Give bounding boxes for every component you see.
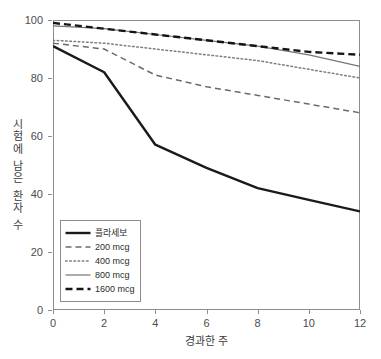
x-tick-label: 0 bbox=[38, 318, 68, 329]
series-line bbox=[53, 46, 360, 211]
y-tick-mark bbox=[48, 194, 52, 195]
x-tick-mark bbox=[207, 310, 208, 314]
y-axis-title-char: 험 bbox=[10, 130, 26, 142]
x-tick-label: 4 bbox=[140, 318, 170, 329]
y-axis-title: 시험에 남은 환자 수 bbox=[10, 118, 26, 232]
y-tick-mark bbox=[48, 252, 52, 253]
legend-line-swatch bbox=[65, 284, 91, 294]
legend-item[interactable]: 800 mcg bbox=[65, 268, 135, 282]
legend-line-swatch bbox=[65, 228, 91, 238]
series-line bbox=[53, 40, 360, 78]
x-tick-mark bbox=[104, 310, 105, 314]
x-tick-label: 10 bbox=[294, 318, 324, 329]
y-tick-mark bbox=[48, 310, 52, 311]
x-tick-mark bbox=[258, 310, 259, 314]
x-tick-mark bbox=[53, 310, 54, 314]
y-tick-label: 20 bbox=[9, 247, 43, 258]
legend-line-swatch bbox=[65, 242, 91, 252]
y-tick-mark bbox=[48, 78, 52, 79]
x-tick-mark bbox=[155, 310, 156, 314]
series-line bbox=[53, 43, 360, 113]
chart-container: 020406080100 024681012 경과한 주 시험에 남은 환자 수… bbox=[0, 0, 381, 359]
legend-item[interactable]: 200 mcg bbox=[65, 240, 135, 254]
y-axis-title-char: 자 bbox=[10, 202, 26, 214]
x-tick-label: 8 bbox=[243, 318, 273, 329]
y-axis-title-char: 수 bbox=[10, 219, 26, 231]
x-axis-title: 경과한 주 bbox=[53, 332, 360, 348]
y-axis-title-char: 시 bbox=[10, 118, 26, 130]
y-tick-label: 80 bbox=[9, 73, 43, 84]
legend-line-swatch bbox=[65, 270, 91, 280]
legend-line-swatch bbox=[65, 256, 91, 266]
x-tick-mark bbox=[309, 310, 310, 314]
x-tick-label: 12 bbox=[345, 318, 375, 329]
y-axis-title-char: 환 bbox=[10, 190, 26, 202]
legend-item-label: 400 mcg bbox=[95, 257, 130, 266]
y-axis-title-char: 에 bbox=[10, 143, 26, 155]
y-tick-mark bbox=[48, 20, 52, 21]
y-axis-title-char: 남 bbox=[10, 160, 26, 172]
legend-item[interactable]: 400 mcg bbox=[65, 254, 135, 268]
series-line bbox=[53, 23, 360, 55]
y-axis-title-char: 은 bbox=[10, 172, 26, 184]
legend-item-label: 플라세보 bbox=[95, 229, 127, 238]
legend-item-label: 1600 mcg bbox=[95, 285, 135, 294]
y-tick-mark bbox=[48, 136, 52, 137]
legend-item-label: 800 mcg bbox=[95, 271, 130, 280]
y-tick-label: 100 bbox=[9, 15, 43, 26]
y-tick-label: 0 bbox=[9, 305, 43, 316]
series-line bbox=[53, 26, 360, 67]
legend-item[interactable]: 플라세보 bbox=[65, 226, 135, 240]
legend-item[interactable]: 1600 mcg bbox=[65, 282, 135, 296]
x-tick-label: 2 bbox=[89, 318, 119, 329]
x-tick-mark bbox=[360, 310, 361, 314]
chart-legend: 플라세보200 mcg400 mcg800 mcg1600 mcg bbox=[60, 220, 141, 302]
legend-item-label: 200 mcg bbox=[95, 243, 130, 252]
x-tick-label: 6 bbox=[192, 318, 222, 329]
